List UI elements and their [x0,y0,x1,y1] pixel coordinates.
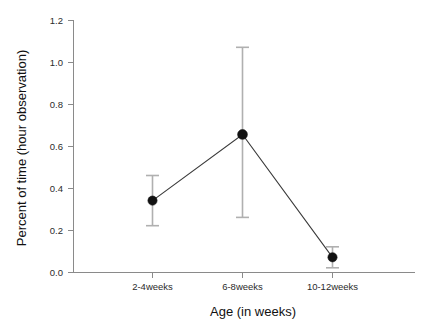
y-tick-label: 0.4 [50,183,63,194]
data-point-marker [148,196,157,205]
y-tick-label: 1.2 [50,15,63,26]
y-tick-label: 0.2 [50,225,63,236]
x-axis-ticks [153,273,333,279]
data-point-marker [238,130,248,140]
x-axis-title: Age (in weeks) [210,304,296,319]
y-tick-label: 0.0 [50,267,63,278]
y-axis-ticks [68,21,74,273]
y-tick-label: 0.6 [50,141,63,152]
x-tick-label: 10-12weeks [307,281,358,292]
chart-figure: 1.2 1.0 0.8 0.6 0.4 0.2 0.0 2-4weeks 6-8… [0,0,437,332]
y-axis-title: Percent of time (hour observation) [14,50,29,247]
data-point-marker [328,253,337,262]
x-tick-label: 6-8weeks [222,281,263,292]
y-tick-label: 1.0 [50,57,63,68]
line-chart-plot: 1.2 1.0 0.8 0.6 0.4 0.2 0.0 2-4weeks 6-8… [0,0,437,332]
y-tick-label: 0.8 [50,99,63,110]
x-tick-label: 2-4weeks [132,281,173,292]
